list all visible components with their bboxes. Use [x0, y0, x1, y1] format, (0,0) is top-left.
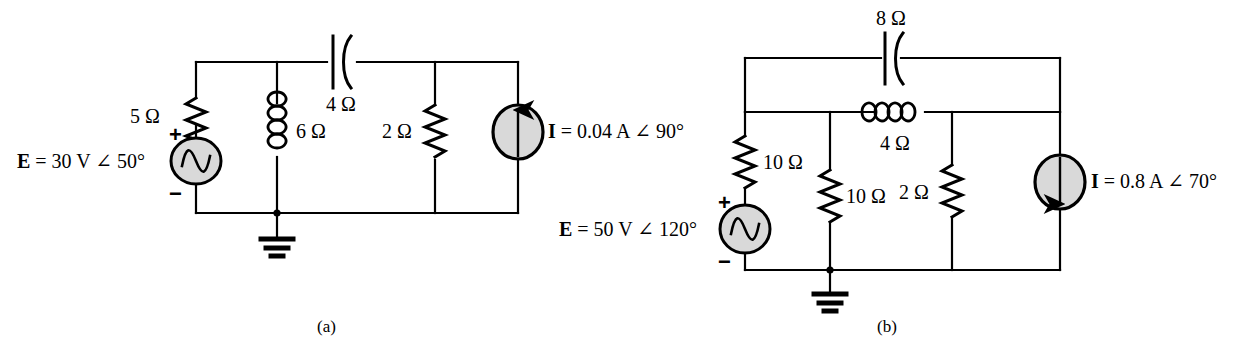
current-source-a-symbol — [493, 105, 543, 159]
current-source-b-value: = 0.8 A ∠ 70° — [1099, 170, 1217, 192]
voltage-source-b-minus-sign: − — [718, 251, 731, 273]
current-source-a-label: I = 0.04 A ∠ 90° — [548, 121, 684, 141]
current-source-a-value: = 0.04 A ∠ 90° — [556, 120, 684, 142]
voltage-source-b-plus-sign: + — [718, 192, 731, 214]
circuit-schematic-canvas — [0, 0, 1257, 363]
voltage-source-a-label: E = 30 V ∠ 50° — [17, 151, 145, 171]
voltage-source-b-label: E = 50 V ∠ 120° — [559, 219, 697, 239]
resistor-10-ohm-middle-symbol — [820, 170, 840, 222]
caption-b: (b) — [877, 318, 897, 335]
voltage-source-b-value: = 50 V ∠ 120° — [572, 218, 697, 240]
voltage-source-a-value: = 30 V ∠ 50° — [30, 150, 145, 172]
resistor-10-ohm-left-symbol — [735, 136, 755, 188]
capacitor-4-ohm-symbol — [333, 36, 351, 88]
caption-a: (a) — [317, 318, 336, 335]
inductor-6-ohm-label: 6 Ω — [296, 121, 326, 141]
resistor-10-ohm-left-label: 10 Ω — [763, 152, 803, 172]
resistor-2-ohm-b-symbol — [942, 165, 962, 217]
resistor-2-ohm-b-label: 2 Ω — [899, 182, 929, 202]
inductor-4-ohm-label: 4 Ω — [880, 133, 910, 153]
resistor-10-ohm-middle-label: 10 Ω — [846, 186, 886, 206]
current-source-b-symbol — [1035, 155, 1085, 209]
voltage-source-a-plus-sign: + — [169, 124, 182, 146]
circuit-figure: 5 Ω 6 Ω 4 Ω 2 Ω + − E = 30 V ∠ 50° I = 0… — [0, 0, 1257, 363]
circuit-a-wires — [196, 62, 518, 238]
resistor-2-ohm-a-label: 2 Ω — [382, 121, 412, 141]
circuit-b-wires — [745, 58, 1060, 293]
voltage-source-a-minus-sign: − — [169, 183, 182, 205]
capacitor-8-ohm-label: 8 Ω — [876, 8, 906, 28]
resistor-5-ohm-label: 5 Ω — [130, 106, 160, 126]
current-source-b-label: I = 0.8 A ∠ 70° — [1091, 171, 1217, 191]
resistor-2-ohm-a-symbol — [425, 105, 445, 157]
capacitor-4-ohm-label: 4 Ω — [326, 94, 356, 114]
